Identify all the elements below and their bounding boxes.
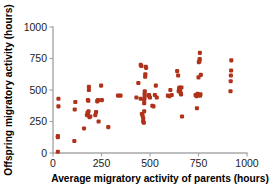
- scatter-point: [94, 110, 98, 114]
- scatter-point: [56, 135, 60, 139]
- axis-tick-labels: 0250500750100002505007501000: [24, 21, 259, 169]
- scatter-point: [180, 114, 184, 118]
- scatter-point: [228, 89, 232, 93]
- scatter-point: [151, 104, 155, 108]
- scatter-point: [229, 79, 233, 83]
- y-tick-label: 1000: [24, 21, 48, 33]
- axis-ticks: [50, 27, 248, 157]
- x-tick-label: 750: [190, 157, 208, 169]
- scatter-point: [198, 92, 202, 96]
- scatter-point: [179, 92, 183, 96]
- x-tick-label: 0: [50, 157, 56, 169]
- scatter-point: [170, 93, 174, 97]
- scatter-point: [56, 150, 60, 154]
- scatter-point: [99, 84, 103, 88]
- scatter-point: [195, 106, 199, 110]
- x-tick-label: 250: [93, 157, 111, 169]
- y-axis-title: Offspring migratory activity (hours): [3, 4, 14, 176]
- y-tick-label: 500: [29, 84, 47, 96]
- scatter-point: [136, 81, 140, 85]
- chart-canvas: 0250500750100002505007501000 Average mig…: [0, 0, 271, 188]
- scatter-point: [198, 51, 202, 55]
- scatter-point: [100, 98, 104, 102]
- scatter-point: [86, 109, 90, 113]
- scatter-point: [73, 100, 77, 104]
- x-tick-label: 500: [141, 157, 159, 169]
- scatter-point: [56, 97, 60, 101]
- scatter-point: [118, 94, 122, 98]
- scatter-point: [88, 114, 92, 118]
- x-axis-title: Average migratory activity of parents (h…: [51, 173, 269, 184]
- scatter-point: [176, 73, 180, 77]
- y-tick-label: 0: [41, 147, 47, 159]
- scatter-point: [73, 107, 77, 111]
- scatter-point: [142, 121, 146, 125]
- scatter-point: [139, 97, 143, 101]
- scatter-point: [148, 96, 152, 100]
- scatter-point: [97, 119, 101, 123]
- scatter-point: [134, 96, 138, 100]
- scatter-point: [82, 126, 86, 130]
- scatter-point: [72, 139, 76, 143]
- scatter-point: [175, 69, 179, 73]
- scatter-point: [142, 109, 146, 113]
- scatter-point: [179, 85, 183, 89]
- scatter-point: [87, 85, 91, 89]
- scatter-point: [154, 84, 158, 88]
- scatter-point: [229, 73, 233, 77]
- scatter-point: [199, 73, 203, 77]
- y-tick-label: 250: [29, 115, 47, 127]
- axes: [53, 27, 247, 153]
- scatter-point: [56, 104, 60, 108]
- scatter-point: [106, 125, 110, 129]
- scatter-point: [155, 96, 159, 100]
- scatter-point: [139, 64, 143, 68]
- x-tick-label: 1000: [235, 157, 259, 169]
- data-points: [56, 51, 234, 154]
- scatter-point: [86, 99, 90, 103]
- scatter-point: [143, 72, 147, 76]
- scatter-point: [198, 57, 202, 61]
- scatter-point: [141, 116, 145, 120]
- scatter-point: [144, 66, 148, 70]
- scatter-point: [168, 88, 172, 92]
- scatter-point: [96, 98, 100, 102]
- scatter-point: [229, 58, 233, 62]
- scatter-point: [143, 89, 147, 93]
- scatter-point: [229, 68, 233, 72]
- scatter-plot-figure: 0250500750100002505007501000 Average mig…: [0, 0, 271, 188]
- y-tick-label: 750: [29, 52, 47, 64]
